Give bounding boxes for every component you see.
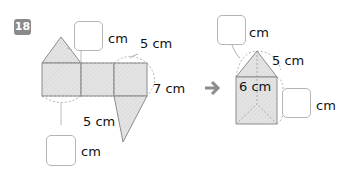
unit-label-prism-top: cm: [249, 26, 269, 39]
answer-box-net-top[interactable]: [74, 21, 103, 51]
height-length-label: 7 cm: [153, 82, 185, 95]
answer-box-net-bottom[interactable]: [46, 135, 76, 166]
prism-slant-label: 5 cm: [272, 54, 304, 67]
base-length-label: 5 cm: [83, 115, 115, 128]
unit-label-prism-right: cm: [316, 99, 336, 112]
unit-label-net-bottom: cm: [81, 145, 101, 158]
answer-box-prism-top[interactable]: [217, 15, 246, 45]
slant-length-label: 5 cm: [140, 37, 172, 50]
prism-base-label: 6 cm: [239, 80, 271, 93]
answer-box-prism-right[interactable]: [282, 88, 311, 118]
arrow-icon: [205, 82, 218, 94]
unit-label-net-top: cm: [108, 32, 128, 45]
